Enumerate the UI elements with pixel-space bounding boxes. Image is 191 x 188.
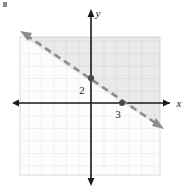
- corner-mark: [3, 2, 7, 7]
- x-axis-arrow-left: [12, 100, 19, 107]
- y-axis-arrow-down: [88, 178, 95, 186]
- tick-label-x-3: 3: [115, 108, 121, 120]
- point-x-intercept: [119, 100, 125, 106]
- graph-figure: 2 3 y x: [0, 0, 191, 188]
- x-axis-label: x: [176, 97, 182, 109]
- tick-label-y-2: 2: [79, 84, 85, 96]
- x-axis-arrow-right: [163, 100, 170, 107]
- y-axis-label: y: [95, 7, 101, 19]
- coordinate-plane-svg: 2 3 y x: [0, 0, 191, 188]
- point-y-intercept: [88, 75, 94, 81]
- y-axis-arrow-up: [88, 9, 95, 17]
